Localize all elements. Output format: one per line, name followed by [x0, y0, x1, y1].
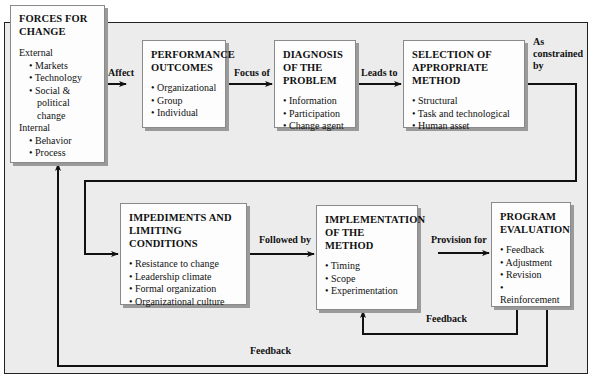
list-item: Behavior [29, 135, 97, 148]
list-item: Group [151, 95, 218, 108]
list-item: Adjustment [500, 257, 563, 270]
list-item: Scope [325, 273, 410, 286]
program-evaluation-box: PROGRAM EVALUATION Feedback Adjustment R… [491, 202, 571, 307]
diagnosis-box: DIAGNOSIS OF THE PROBLEM Information Par… [274, 40, 356, 128]
edge-label-focus-of: Focus of [234, 67, 270, 79]
program-evaluation-title: PROGRAM EVALUATION [500, 210, 563, 236]
list-item: Formal organization [129, 283, 239, 296]
selection-method-list: Structural Task and technological Human … [412, 95, 517, 133]
forces-for-change-box: FORCES FOR CHANGE External Markets Techn… [10, 5, 105, 163]
internal-list: Behavior Process [19, 135, 97, 160]
edge-label-feedback-outer: Feedback [250, 345, 291, 357]
list-item: Feedback [500, 244, 563, 257]
list-item: Change agent [283, 120, 348, 133]
diagnosis-list: Information Participation Change agent [283, 95, 348, 133]
list-item: Reinforcement [500, 282, 563, 307]
list-item: Technology [29, 72, 97, 85]
implementation-title: IMPLEMENTATION OF THE METHOD [325, 213, 410, 252]
edge-label-leads-to: Leads to [361, 67, 397, 79]
list-item: Markets [29, 60, 97, 73]
impediments-list: Resistance to change Leadership climate … [129, 258, 239, 308]
edge-label-provision-for: Provision for [431, 234, 487, 246]
list-item: Individual [151, 107, 218, 120]
external-list: Markets Technology Social & political ch… [19, 60, 97, 123]
list-item: Organizational culture [129, 296, 239, 309]
list-item: Participation [283, 108, 348, 121]
list-item: Timing [325, 260, 410, 273]
program-evaluation-list: Feedback Adjustment Revision Reinforceme… [500, 244, 563, 307]
edge-label-as-constrained-by-1: As [533, 36, 544, 48]
list-item: Process [29, 147, 97, 160]
selection-method-box: SELECTION OF APPROPRIATE METHOD Structur… [403, 40, 525, 128]
list-item: Human asset [412, 120, 517, 133]
list-item: Information [283, 95, 348, 108]
list-item: Structural [412, 95, 517, 108]
edge-label-as-constrained-by-3: by [533, 60, 544, 72]
diagnosis-title: DIAGNOSIS OF THE PROBLEM [283, 48, 348, 87]
list-item: Leadership climate [129, 271, 239, 284]
list-item: Resistance to change [129, 258, 239, 271]
performance-outcomes-title: PERFORMANCE OUTCOMES [151, 48, 218, 74]
internal-label: Internal [19, 122, 97, 135]
list-item: Organizational [151, 82, 218, 95]
forces-for-change-title: FORCES FOR CHANGE [19, 12, 97, 38]
edge-label-affect: Affect [108, 67, 134, 79]
impediments-box: IMPEDIMENTS AND LIMITING CONDITIONS Resi… [120, 203, 247, 305]
list-item: Task and technological [412, 108, 517, 121]
list-item: Social & political change [29, 85, 97, 123]
implementation-box: IMPLEMENTATION OF THE METHOD Timing Scop… [316, 205, 418, 310]
edge-label-feedback-inner: Feedback [426, 313, 467, 325]
edge-label-as-constrained-by-2: constrained [533, 48, 583, 60]
impediments-title: IMPEDIMENTS AND LIMITING CONDITIONS [129, 211, 239, 250]
performance-outcomes-box: PERFORMANCE OUTCOMES Organizational Grou… [142, 40, 226, 128]
edge-label-followed-by: Followed by [259, 234, 311, 246]
selection-method-title: SELECTION OF APPROPRIATE METHOD [412, 48, 517, 87]
implementation-list: Timing Scope Experimentation [325, 260, 410, 298]
external-label: External [19, 47, 97, 60]
list-item: Revision [500, 269, 563, 282]
list-item: Experimentation [325, 285, 410, 298]
performance-outcomes-list: Organizational Group Individual [151, 82, 218, 120]
